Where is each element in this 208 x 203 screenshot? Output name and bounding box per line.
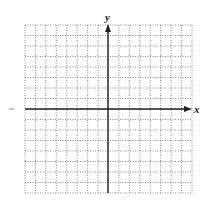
y-axis-label: y bbox=[103, 11, 110, 23]
coordinate-plane: x y bbox=[0, 0, 208, 203]
stray-mark: ~ bbox=[8, 105, 15, 114]
x-axis-label: x bbox=[193, 103, 200, 115]
x-axis-arrow-icon bbox=[184, 106, 192, 112]
